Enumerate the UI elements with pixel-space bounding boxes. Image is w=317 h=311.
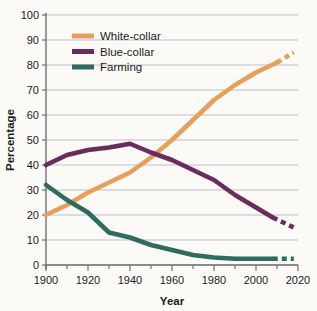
y-tick-label: 60: [27, 109, 39, 121]
y-tick-label: 20: [27, 209, 39, 221]
chart-figure: 0102030405060708090100 19001920194019601…: [0, 0, 317, 311]
y-tick-label: 30: [27, 184, 39, 196]
x-axis-title: Year: [160, 295, 185, 307]
x-tick-label: 2000: [244, 274, 268, 286]
y-tick-label: 10: [27, 234, 39, 246]
legend-label-blue-collar: Blue-collar: [100, 46, 154, 58]
line-chart-canvas: 0102030405060708090100 19001920194019601…: [0, 0, 317, 311]
x-tick-label: 1900: [34, 274, 58, 286]
y-tick-label: 0: [33, 259, 39, 271]
legend-label-white-collar: White-collar: [100, 30, 161, 42]
x-tick-label: 1960: [160, 274, 184, 286]
y-tick-label: 90: [27, 34, 39, 46]
y-axis-title: Percentage: [4, 109, 16, 171]
y-tick-label: 50: [27, 134, 39, 146]
x-tick-label: 1980: [202, 274, 226, 286]
y-tick-label: 80: [27, 59, 39, 71]
y-tick-label: 70: [27, 84, 39, 96]
x-tick-label: 1920: [76, 274, 100, 286]
legend-label-farming: Farming: [100, 61, 142, 73]
y-tick-label: 100: [21, 9, 39, 21]
y-tick-label: 40: [27, 159, 39, 171]
x-tick-label: 1940: [118, 274, 142, 286]
x-tick-label: 2020: [286, 274, 310, 286]
